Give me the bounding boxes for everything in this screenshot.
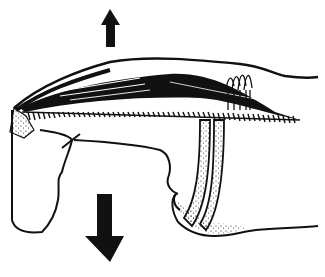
- anatomical-diagram: [0, 0, 325, 277]
- hoof-outline: [12, 110, 178, 232]
- down-arrow-icon: [85, 194, 124, 262]
- tendon-hatching: [22, 112, 300, 123]
- figure-caption: [14, 270, 314, 277]
- up-arrow-icon: [101, 9, 120, 47]
